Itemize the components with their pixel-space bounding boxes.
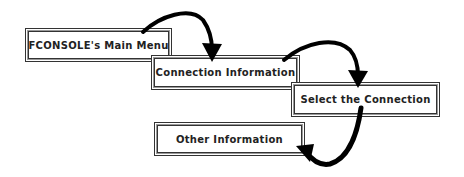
arrow-icon	[143, 13, 222, 62]
arrow-icon	[284, 42, 368, 88]
flow-diagram: FCONSOLE's Main Menu Connection Informat…	[0, 0, 464, 177]
arrow-icon	[296, 108, 361, 164]
arrows-layer	[0, 0, 464, 177]
